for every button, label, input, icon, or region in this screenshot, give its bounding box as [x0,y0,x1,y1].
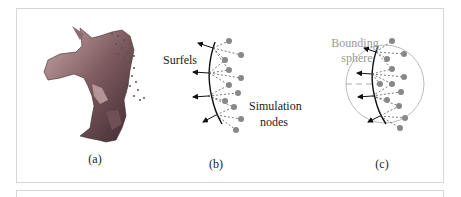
figure-canvas: (a) Surfels Simulation nodes (b) [0,0,461,197]
caption-c: (c) [375,157,388,171]
surfels-label: Surfels [163,53,197,67]
panel-a-model [44,26,145,142]
nodes-label: nodes [260,115,288,129]
bounding-label: Bounding [331,36,378,50]
simulation-label: Simulation [249,99,302,113]
surfel-normal [198,43,213,48]
caption-a: (a) [88,152,101,166]
panel-b-diagram [193,38,244,133]
sphere-label: sphere [341,51,372,65]
caption-b: (b) [209,157,223,171]
